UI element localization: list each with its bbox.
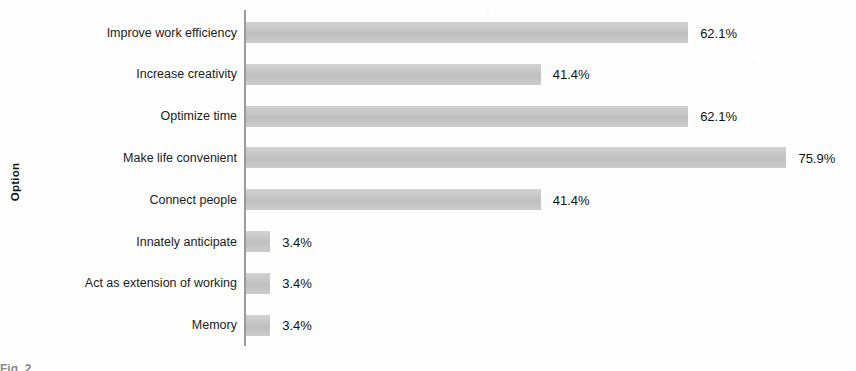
bar-row: Optimize time62.1% [0,106,856,127]
bar [246,147,786,168]
bar [246,231,270,252]
bar-row: Memory3.4% [0,315,856,336]
value-label: 62.1% [700,109,737,124]
bar [246,189,541,210]
category-label: Innately anticipate [136,235,237,249]
value-label: 75.9% [798,150,835,165]
category-label: Memory [192,318,237,332]
bar-row: Improve work efficiency62.1% [0,22,856,43]
figure-caption-text: Fig. 2 [0,362,31,371]
category-label: Optimize time [161,109,237,123]
bar-row: Increase creativity41.4% [0,64,856,85]
y-axis-line [244,10,246,346]
bar [246,106,688,127]
value-label: 41.4% [553,192,590,207]
value-label: 3.4% [282,276,312,291]
bar-row: Make life convenient75.9% [0,147,856,168]
bar-row: Connect people41.4% [0,189,856,210]
category-label: Act as extension of working [85,276,237,290]
plot-area: Improve work efficiency62.1%Increase cre… [0,0,856,360]
bar-row: Innately anticipate3.4% [0,231,856,252]
category-label: Make life convenient [123,151,237,165]
bar [246,273,270,294]
bar-row: Act as extension of working3.4% [0,273,856,294]
value-label: 41.4% [553,67,590,82]
category-label: Improve work efficiency [107,26,237,40]
value-label: 3.4% [282,318,312,333]
bar [246,22,688,43]
value-label: 3.4% [282,234,312,249]
bar [246,64,541,85]
category-label: Increase creativity [136,67,237,81]
figure-caption: Fig. 2 [0,359,856,371]
category-label: Connect people [149,193,237,207]
bar [246,315,270,336]
figure-container: Option Improve work efficiency62.1%Incre… [0,0,856,371]
value-label: 62.1% [700,25,737,40]
